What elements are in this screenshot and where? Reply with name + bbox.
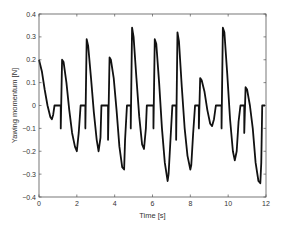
- x-tick-label: 2: [75, 200, 79, 207]
- y-tick-label: 0.2: [26, 56, 36, 63]
- y-axis-label: Yawing momentum [N]: [10, 68, 19, 143]
- y-tick-label: 0.3: [26, 33, 36, 40]
- x-tick-label: 0: [37, 200, 41, 207]
- y-tick-label: 0.1: [26, 79, 36, 86]
- x-tick-label: 6: [151, 200, 155, 207]
- y-tick-label: 0.4: [26, 11, 36, 18]
- chart-canvas: 024681012−0.4−0.3−0.2−0.100.10.20.30.4 T…: [0, 0, 282, 229]
- x-tick-label: 10: [224, 200, 232, 207]
- x-tick-label: 8: [188, 200, 192, 207]
- data-series-line: [39, 28, 265, 184]
- y-tick-label: −0.3: [22, 171, 36, 178]
- y-tick-label: 0: [32, 102, 36, 109]
- y-tick-label: −0.1: [22, 125, 36, 132]
- x-tick-label: 4: [113, 200, 117, 207]
- y-tick-label: −0.4: [22, 194, 36, 201]
- x-tick-label: 12: [262, 200, 270, 207]
- y-tick-label: −0.2: [22, 148, 36, 155]
- x-axis-label: Time [s]: [139, 211, 165, 220]
